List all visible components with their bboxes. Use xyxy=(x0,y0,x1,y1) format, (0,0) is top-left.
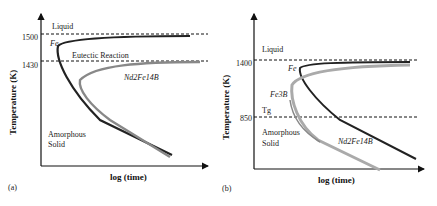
label-nd2fe14b: Nd2Fe14B xyxy=(123,73,159,82)
label-amorphous: Amorphous xyxy=(48,130,86,139)
label-solid: Solid xyxy=(48,140,65,149)
label-fe3b: Fe3B xyxy=(269,90,287,99)
y-axis-label: Temperature (K) xyxy=(8,70,18,135)
label-eutectic: Eutectic Reaction xyxy=(72,51,129,60)
label-tg: Tg xyxy=(262,106,271,115)
label-nd2fe14b: Nd2Fe14B xyxy=(337,137,373,146)
label-fe: Fe xyxy=(287,64,297,73)
label-amorphous: Amorphous xyxy=(262,128,300,137)
tick-1500: 1500 xyxy=(22,33,38,42)
tick-1400: 1400 xyxy=(236,59,252,68)
x-axis-label: log (time) xyxy=(318,175,355,185)
label-solid: Solid xyxy=(262,139,279,148)
y-axis-label: Temperature (K) xyxy=(221,75,231,140)
label-liquid: Liquid xyxy=(262,45,283,54)
tick-850: 850 xyxy=(240,114,252,123)
caption-b: (b) xyxy=(222,184,232,193)
label-liquid: Liquid xyxy=(52,22,73,31)
panel-b: Liquid 1400 850 Fe Fe3B Tg Nd2Fe14B Amor… xyxy=(221,14,424,193)
caption-a: (a) xyxy=(8,183,17,192)
panel-a: Liquid 1500 1430 Fe Eutectic Reaction Nd… xyxy=(8,14,208,192)
tick-1430: 1430 xyxy=(22,61,38,70)
ttt-diagram: Liquid 1500 1430 Fe Eutectic Reaction Nd… xyxy=(0,0,437,206)
label-fe: Fe xyxy=(49,39,59,48)
x-axis-label: log (time) xyxy=(110,172,147,182)
